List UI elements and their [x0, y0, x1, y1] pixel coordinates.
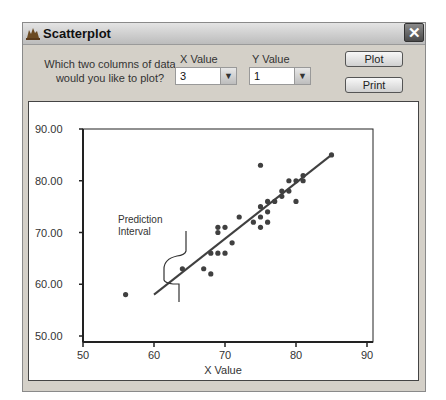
y-value-select[interactable]: 1 ▼: [249, 67, 311, 85]
data-point: [215, 225, 220, 230]
close-icon: ✕: [408, 24, 421, 41]
x-tick-label: 70: [219, 349, 231, 361]
x-value-label: X Value: [180, 53, 218, 65]
data-point: [123, 292, 128, 297]
scatter-chart: 50.0060.0070.0080.0090.005060708090X Val…: [29, 102, 418, 380]
data-point: [265, 199, 270, 204]
data-point: [251, 220, 256, 225]
x-value-select[interactable]: 3 ▼: [175, 67, 237, 85]
data-point: [215, 251, 220, 256]
y-tick-label: 80.00: [35, 175, 63, 187]
data-point: [265, 209, 270, 214]
data-point: [258, 204, 263, 209]
x-tick-label: 80: [290, 349, 302, 361]
y-tick-label: 50.00: [35, 330, 63, 342]
chevron-down-icon[interactable]: ▼: [294, 68, 310, 84]
data-point: [258, 214, 263, 219]
data-point: [208, 251, 213, 256]
data-point: [208, 271, 213, 276]
close-button[interactable]: ✕: [404, 23, 424, 42]
prompt-line-2: would you like to plot?: [35, 71, 185, 85]
plot-button[interactable]: Plot: [345, 51, 403, 67]
chevron-down-icon[interactable]: ▼: [220, 68, 236, 84]
x-value-selected: 3: [180, 70, 186, 82]
x-axis-title: X Value: [204, 364, 242, 376]
column-prompt: Which two columns of data would you like…: [35, 57, 185, 85]
window-title: Scatterplot: [43, 26, 111, 41]
data-point: [222, 251, 227, 256]
x-tick-label: 90: [361, 349, 373, 361]
data-point: [279, 194, 284, 199]
plot-panel: 50.0060.0070.0080.0090.005060708090X Val…: [28, 101, 419, 381]
title-bar[interactable]: Scatterplot ✕: [23, 23, 425, 45]
y-value-selected: 1: [254, 70, 260, 82]
x-tick-label: 60: [148, 349, 160, 361]
data-point: [293, 199, 298, 204]
data-point: [286, 178, 291, 183]
data-point: [272, 199, 277, 204]
data-point: [265, 220, 270, 225]
data-point: [230, 240, 235, 245]
data-point: [180, 266, 185, 271]
data-point: [258, 225, 263, 230]
data-point: [329, 152, 334, 157]
data-point: [201, 266, 206, 271]
y-tick-label: 60.00: [35, 278, 63, 290]
data-point: [286, 189, 291, 194]
y-value-label: Y Value: [252, 53, 290, 65]
x-tick-label: 50: [77, 349, 89, 361]
annotation-line-1: Prediction: [118, 214, 162, 225]
data-point: [279, 189, 284, 194]
scatterplot-window: Scatterplot ✕ Which two columns of data …: [22, 22, 426, 392]
y-tick-label: 70.00: [35, 227, 63, 239]
data-point: [293, 178, 298, 183]
data-point: [301, 178, 306, 183]
data-point: [258, 163, 263, 168]
print-button[interactable]: Print: [345, 77, 403, 93]
data-point: [222, 225, 227, 230]
data-point: [301, 173, 306, 178]
chart-app-icon: [26, 26, 40, 40]
y-tick-label: 90.00: [35, 123, 63, 135]
data-point: [215, 230, 220, 235]
annotation-line-2: Interval: [118, 226, 151, 237]
data-point: [237, 214, 242, 219]
prompt-line-1: Which two columns of data: [35, 57, 185, 71]
